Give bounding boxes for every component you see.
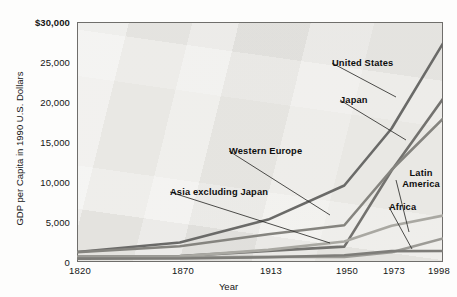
x-tick-label-1870: 1870 — [172, 265, 194, 276]
leader-line-western-europe — [229, 151, 330, 215]
x-tick-label-1973: 1973 — [383, 265, 405, 276]
series-callout-asia-excluding-japan: Asia excluding Japan — [170, 187, 268, 198]
series-callout-japan: Japan — [340, 95, 368, 106]
x-tick-label-1820: 1820 — [69, 265, 91, 276]
series-callout-latin-america: Latin America — [392, 168, 450, 189]
x-tick-label-1998: 1998 — [428, 265, 450, 276]
gdp-per-capita-line-chart: GDP per Capita in 1990 U.S. Dollars $30,… — [0, 0, 457, 297]
x-axis-title: Year — [0, 281, 457, 292]
series-callout-united-states: United States — [332, 58, 393, 69]
leader-line-africa — [389, 207, 412, 249]
x-tick-label-1913: 1913 — [260, 265, 282, 276]
series-line-japan — [77, 99, 443, 257]
series-line-western-europe — [77, 119, 443, 253]
series-callout-western-europe: Western Europe — [229, 146, 302, 157]
x-tick-label-1950: 1950 — [336, 265, 358, 276]
series-callout-africa: Africa — [389, 202, 416, 213]
